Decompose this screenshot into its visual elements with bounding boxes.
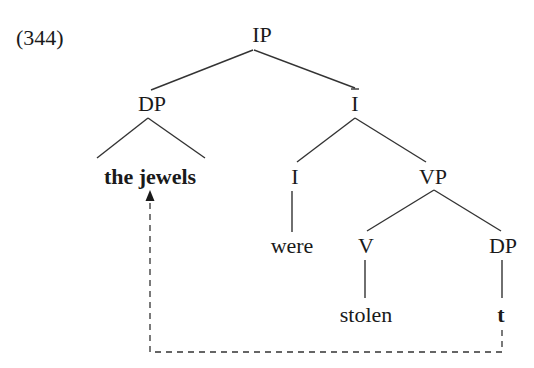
node-trace: t bbox=[497, 302, 505, 327]
edge-ibar-i bbox=[297, 118, 355, 162]
node-stolen: stolen bbox=[340, 302, 393, 327]
arrowhead-icon bbox=[146, 190, 155, 201]
edge-vp-v bbox=[367, 190, 434, 231]
edge-ip-dp bbox=[151, 50, 253, 90]
node-ip: IP bbox=[252, 22, 272, 47]
node-i-bar: I bbox=[351, 91, 358, 116]
node-v: V bbox=[358, 233, 374, 258]
node-the-jewels: the jewels bbox=[104, 164, 197, 189]
edge-vp-dp bbox=[434, 190, 501, 231]
example-number: (344) bbox=[16, 25, 64, 50]
node-vp: VP bbox=[419, 164, 447, 189]
node-dp-object: DP bbox=[489, 233, 517, 258]
syntax-tree-diagram: (344) IP DP I the jewels I VP were V DP … bbox=[0, 0, 534, 368]
edge-dp-triangle-right bbox=[148, 118, 205, 158]
node-were: were bbox=[271, 233, 314, 258]
node-i: I bbox=[291, 164, 298, 189]
edge-ip-ibar bbox=[254, 50, 355, 88]
edge-dp-triangle-left bbox=[97, 118, 148, 158]
edge-ibar-vp bbox=[355, 118, 426, 162]
movement-path bbox=[150, 200, 502, 352]
node-dp: DP bbox=[138, 91, 166, 116]
